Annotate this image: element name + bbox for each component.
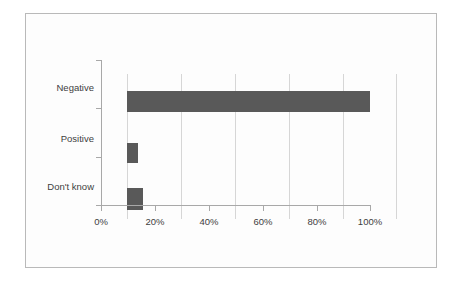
x-axis-tick-40 [209, 206, 210, 211]
x-tick-label-60: 60% [243, 216, 283, 227]
x-tick-label-40: 40% [189, 216, 229, 227]
category-label-positive: Positive [18, 133, 94, 144]
y-axis-tick-0 [96, 60, 101, 61]
x-axis-line [101, 205, 371, 206]
bar-negative [127, 91, 370, 112]
x-tick-label-100: 100% [350, 216, 390, 227]
x-tick-label-0: 0% [81, 216, 121, 227]
plot-area [127, 74, 397, 219]
y-axis-tick-1 [96, 108, 101, 109]
x-tick-label-20: 20% [135, 216, 175, 227]
bar-chart-figure: Negative Positive Don't know 0% 20% 40% … [0, 0, 458, 287]
y-axis-line [101, 60, 102, 206]
x-tick-label-80: 80% [297, 216, 337, 227]
category-label-dont-know: Don't know [18, 181, 94, 192]
gridline-100 [396, 74, 397, 219]
x-axis-tick-0 [101, 206, 102, 211]
x-axis-tick-20 [155, 206, 156, 211]
x-axis-tick-100 [370, 206, 371, 211]
bar-positive [127, 143, 138, 163]
x-axis-tick-60 [263, 206, 264, 211]
y-axis-tick-2 [96, 157, 101, 158]
x-axis-tick-80 [317, 206, 318, 211]
category-label-negative: Negative [18, 82, 94, 93]
bar-dont-know [127, 188, 143, 210]
